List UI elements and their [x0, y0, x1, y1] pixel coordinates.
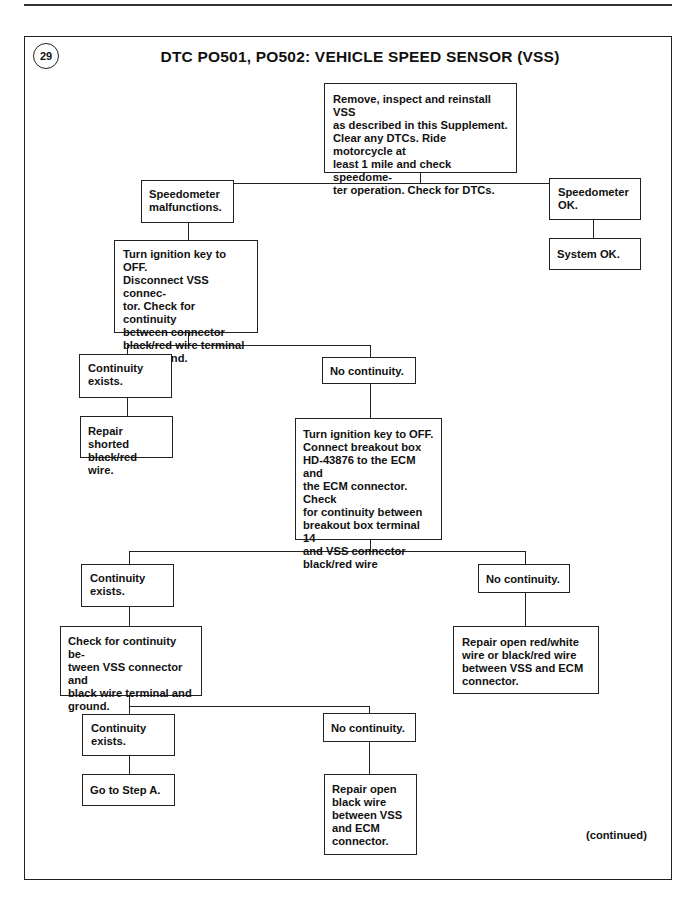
connector-line — [129, 551, 130, 565]
connector-line — [593, 219, 594, 239]
connector-line — [525, 551, 526, 565]
connector-line — [370, 345, 371, 357]
flow-box-check-blackred-ground: Turn ignition key to OFF. Disconnect VSS… — [114, 240, 258, 333]
continued-note: (continued) — [586, 829, 647, 841]
connector-line — [127, 397, 128, 416]
connector-line — [370, 383, 371, 419]
flow-box-system-ok: System OK. — [549, 238, 641, 270]
flow-box-check-black-ground: Check for continuity be- tween VSS conne… — [60, 626, 202, 696]
flow-box-speedometer-ok: Speedometer OK. — [549, 178, 641, 220]
flow-box-continuity-exists-3: Continuity exists. — [82, 714, 175, 756]
flow-box-breakout-box-check: Turn ignition key to OFF. Connect breako… — [295, 418, 442, 540]
flow-box-start: Remove, inspect and reinstall VSS as des… — [324, 83, 517, 173]
flow-box-speedometer-malfunctions: Speedometer malfunctions. — [141, 180, 234, 223]
connector-line — [129, 706, 369, 707]
flow-box-repair-open-black: Repair open black wire between VSS and E… — [324, 774, 417, 855]
flow-box-no-continuity-3: No continuity. — [323, 713, 416, 742]
page-header-rule — [24, 4, 672, 6]
connector-line — [129, 706, 130, 714]
flow-box-continuity-exists-1: Continuity exists. — [79, 354, 172, 398]
flow-box-go-to-step-a: Go to Step A. — [82, 774, 175, 806]
step-number-badge: 29 — [33, 43, 59, 69]
flow-box-repair-open-redwhite: Repair open red/white wire or black/red … — [453, 626, 599, 694]
flow-box-no-continuity-2: No continuity. — [478, 564, 570, 593]
page-title: DTC PO501, PO502: VEHICLE SPEED SENSOR (… — [60, 48, 660, 66]
flow-box-repair-shorted: Repair shorted black/red wire. — [80, 416, 173, 458]
connector-line — [129, 606, 130, 626]
connector-line — [369, 741, 370, 775]
flow-box-no-continuity-1: No continuity. — [322, 357, 416, 384]
connector-line — [129, 755, 130, 775]
connector-line — [188, 222, 189, 240]
flow-box-continuity-exists-2: Continuity exists. — [81, 564, 174, 607]
connector-line — [525, 592, 526, 626]
